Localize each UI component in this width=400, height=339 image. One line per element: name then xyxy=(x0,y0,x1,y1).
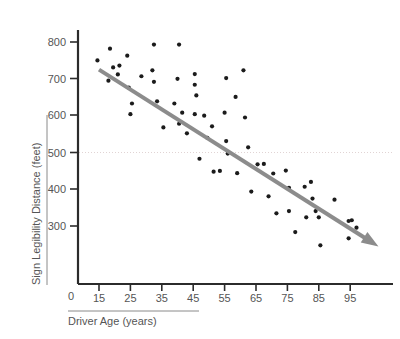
data-point xyxy=(197,157,201,161)
data-point xyxy=(354,226,358,230)
trend-line xyxy=(99,70,366,239)
data-point xyxy=(223,111,227,115)
data-point xyxy=(332,198,336,202)
data-point xyxy=(125,54,129,58)
data-point xyxy=(309,180,313,184)
data-point xyxy=(303,185,307,189)
x-tick-label-25: 25 xyxy=(124,292,136,304)
data-point xyxy=(185,131,189,135)
data-point xyxy=(193,83,197,87)
data-point xyxy=(202,114,206,118)
origin-zero-label: 0 xyxy=(68,290,74,302)
data-point xyxy=(241,68,245,72)
data-point xyxy=(293,230,297,234)
data-point xyxy=(193,72,197,76)
data-point xyxy=(116,72,120,76)
data-point xyxy=(172,101,176,105)
data-point xyxy=(139,74,143,78)
x-tick-label-65: 65 xyxy=(250,292,262,304)
data-point xyxy=(218,169,222,173)
data-point xyxy=(108,47,112,51)
data-point xyxy=(193,112,197,116)
data-point xyxy=(106,79,110,83)
y-axis-title-group: Sign Legibility Distance (feet) xyxy=(30,115,47,285)
data-point xyxy=(255,162,259,166)
data-point xyxy=(262,162,266,166)
data-point xyxy=(210,124,214,128)
data-point xyxy=(350,218,354,222)
data-point xyxy=(347,236,351,240)
data-point xyxy=(150,68,154,72)
x-tick-label-35: 35 xyxy=(156,292,168,304)
x-axis-title: Driver Age (years) xyxy=(68,315,157,327)
data-point xyxy=(317,215,321,219)
data-point xyxy=(235,171,239,175)
data-point xyxy=(155,99,159,103)
data-point xyxy=(152,80,156,84)
data-point xyxy=(212,170,216,174)
data-point xyxy=(284,168,288,172)
x-axis-title-group: Driver Age (years) xyxy=(68,311,199,327)
data-point xyxy=(194,93,198,97)
data-point xyxy=(95,58,99,62)
data-point xyxy=(224,76,228,80)
data-point xyxy=(287,209,291,213)
data-point xyxy=(117,63,121,67)
data-point xyxy=(175,77,179,81)
data-point xyxy=(271,171,275,175)
data-point xyxy=(246,145,250,149)
x-tick-label-45: 45 xyxy=(187,292,199,304)
data-point xyxy=(224,139,228,143)
y-tick-label-600: 600 xyxy=(48,109,66,121)
data-point xyxy=(274,211,278,215)
x-tick-label-95: 95 xyxy=(344,292,356,304)
y-tick-label-700: 700 xyxy=(48,73,66,85)
scatter-plot-figure: 800 700 600 500 400 300 15 25 35 xyxy=(0,0,400,339)
data-point xyxy=(304,215,308,219)
y-tick-label-500: 500 xyxy=(48,147,66,159)
data-point xyxy=(180,111,184,115)
data-point xyxy=(111,65,115,69)
trend-arrowhead-icon xyxy=(361,232,379,246)
x-tick-label-55: 55 xyxy=(218,292,230,304)
trend-line-group xyxy=(99,70,378,247)
y-tick-label-300: 300 xyxy=(48,220,66,232)
y-tick-label-800: 800 xyxy=(48,36,66,48)
data-point xyxy=(177,42,181,46)
data-point xyxy=(233,95,237,99)
data-point xyxy=(249,189,253,193)
data-point xyxy=(243,115,247,119)
x-tick-label-15: 15 xyxy=(93,292,105,304)
y-axis-ticks xyxy=(70,42,78,226)
x-tick-label-75: 75 xyxy=(281,292,293,304)
data-point xyxy=(152,42,156,46)
x-axis: 15 25 35 45 55 65 75 85 95 xyxy=(78,284,393,304)
data-point xyxy=(310,196,314,200)
y-axis-title: Sign Legibility Distance (feet) xyxy=(30,143,42,285)
chart-canvas: 800 700 600 500 400 300 15 25 35 xyxy=(0,0,400,339)
data-point xyxy=(128,112,132,116)
y-tick-label-400: 400 xyxy=(48,183,66,195)
data-points-layer xyxy=(95,42,358,247)
data-point xyxy=(266,194,270,198)
data-point xyxy=(161,125,165,129)
data-point xyxy=(130,101,134,105)
data-point xyxy=(318,243,322,247)
y-axis: 800 700 600 500 400 300 xyxy=(48,30,78,284)
x-tick-label-85: 85 xyxy=(313,292,325,304)
